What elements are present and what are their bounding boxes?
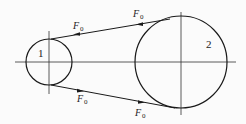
svg-text:F: F [72, 20, 80, 31]
force-label-top-left: F 0 [72, 20, 84, 33]
belt-bottom-span [51, 85, 175, 108]
force-label-bottom-right: F 0 [134, 107, 146, 120]
belt-top-span [51, 19, 170, 39]
svg-text:0: 0 [140, 13, 144, 21]
svg-text:F: F [132, 8, 140, 19]
belt-drive-diagram: 1 2 F 0 F 0 F 0 F 0 [0, 0, 246, 124]
svg-text:F: F [134, 107, 142, 118]
svg-text:0: 0 [80, 25, 84, 33]
pulley-2-label: 2 [206, 38, 212, 50]
svg-text:0: 0 [84, 98, 88, 106]
force-label-bottom-left: F 0 [76, 93, 88, 106]
svg-text:0: 0 [142, 112, 146, 120]
svg-text:F: F [76, 93, 84, 104]
diagram-svg: 1 2 F 0 F 0 F 0 F 0 [0, 0, 246, 124]
pulley-1-label: 1 [38, 47, 44, 59]
force-label-top-right: F 0 [132, 8, 144, 21]
